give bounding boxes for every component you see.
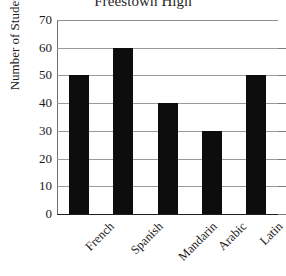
x-tick-label-french: French xyxy=(83,220,117,254)
x-tick-label-arabic: Arabic xyxy=(216,220,249,253)
bar-mandarin xyxy=(158,103,178,214)
gridline-0 xyxy=(57,214,278,215)
x-tick-label-latin: Latin xyxy=(258,220,286,248)
gridline-60 xyxy=(57,48,278,49)
y-tick-label-10: 10 xyxy=(12,179,52,192)
right-tick-60 xyxy=(278,48,286,49)
y-tick-label-20: 20 xyxy=(12,152,52,165)
right-tick-20 xyxy=(278,159,286,160)
x-tick-label-spanish: Spanish xyxy=(129,220,166,257)
gridline-50 xyxy=(57,75,278,76)
bar-latin xyxy=(246,75,266,214)
right-tick-10 xyxy=(278,186,286,187)
y-tick-label-30: 30 xyxy=(12,124,52,137)
bar-arabic xyxy=(202,131,222,214)
y-tick-label-0: 0 xyxy=(12,207,52,220)
bar-spanish xyxy=(113,48,133,214)
right-tick-0 xyxy=(278,214,286,215)
gridline-70 xyxy=(57,20,278,21)
chart-title: Freestown High xyxy=(0,0,286,10)
right-tick-30 xyxy=(278,131,286,132)
plot-area xyxy=(57,20,278,214)
right-tick-40 xyxy=(278,103,286,104)
y-tick-label-40: 40 xyxy=(12,96,52,109)
y-tick-label-70: 70 xyxy=(12,13,52,26)
right-tick-50 xyxy=(278,75,286,76)
x-tick-label-mandarin: Mandarin xyxy=(176,220,220,264)
bar-chart: Freestown High Number of Students 706050… xyxy=(0,0,286,276)
y-tick-label-60: 60 xyxy=(12,41,52,54)
bar-french xyxy=(69,75,89,214)
y-tick-label-50: 50 xyxy=(12,68,52,81)
